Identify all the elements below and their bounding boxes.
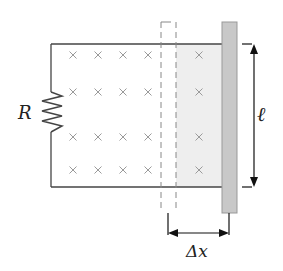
length-arrow	[242, 44, 258, 187]
swept-area	[176, 44, 222, 187]
initial-bar-position	[161, 22, 176, 212]
length-label: ℓ	[257, 102, 266, 126]
displacement-label: Δx	[185, 241, 208, 261]
rail-circuit-diagram: ℓ R Δx	[0, 0, 283, 271]
sliding-bar	[222, 22, 237, 213]
resistor-icon	[42, 92, 62, 132]
displacement-arrow	[168, 213, 229, 237]
resistor-label: R	[17, 102, 32, 123]
